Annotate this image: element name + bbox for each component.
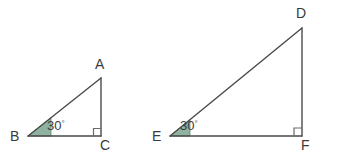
vertex-label-b: B <box>10 129 19 143</box>
degree-symbol-def: ° <box>194 119 197 128</box>
vertex-label-e: E <box>152 129 161 143</box>
geometry-figure-canvas <box>0 0 339 158</box>
vertex-label-c: C <box>100 138 110 152</box>
angle-label-def: 30° <box>180 119 198 132</box>
vertex-label-a: A <box>95 57 104 71</box>
vertex-label-d: D <box>296 6 306 20</box>
angle-value-abc: 30 <box>47 118 61 133</box>
angle-value-def: 30 <box>180 118 194 133</box>
degree-symbol-abc: ° <box>61 119 64 128</box>
angle-label-abc: 30° <box>47 119 65 132</box>
vertex-label-f: F <box>301 138 310 152</box>
